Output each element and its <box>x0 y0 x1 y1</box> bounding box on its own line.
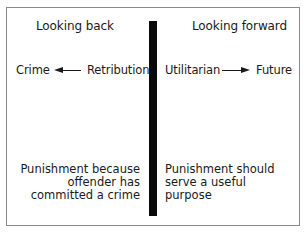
left-heading: Looking back <box>36 20 114 33</box>
future-label: Future <box>256 64 292 77</box>
arrow-right-head-icon <box>241 67 250 73</box>
right-description: Punishment should serve a useful purpose <box>165 163 275 202</box>
left-description-line-3: committed a crime <box>20 189 140 202</box>
retribution-label: Retribution <box>87 64 150 77</box>
arrow-right-shaft <box>222 70 243 71</box>
center-divider-bar <box>149 21 157 216</box>
crime-label: Crime <box>16 64 50 77</box>
left-description: Punishment because offender has committe… <box>20 163 140 202</box>
utilitarian-label: Utilitarian <box>165 64 220 77</box>
right-heading: Looking forward <box>192 20 287 33</box>
right-description-line-3: purpose <box>165 189 275 202</box>
arrow-left-shaft <box>60 70 81 71</box>
